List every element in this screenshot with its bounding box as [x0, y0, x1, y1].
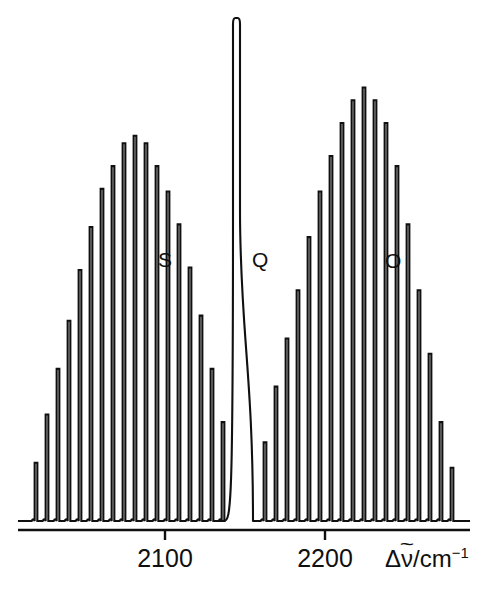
branch-label-q: Q — [252, 249, 269, 270]
axis-title-delta: Δ — [385, 545, 401, 572]
x-tick-label-2200: 2200 — [297, 546, 353, 571]
branch-label-o: O — [385, 250, 402, 271]
raman-spectrum-figure: S Q O 2100 2200 Δ~ν/cm−1 — [0, 0, 486, 607]
axis-title-nu-tilde-group: ~ν — [401, 547, 413, 571]
x-tick-label-2100: 2100 — [137, 546, 193, 571]
tilde-accent: ~ — [400, 535, 414, 555]
spectrum-trace-group — [18, 18, 470, 521]
axis-title-exponent: −1 — [452, 545, 469, 561]
spectrum-plot — [0, 0, 486, 607]
axis-title-unit: /cm — [413, 545, 452, 572]
x-axis-title: Δ~ν/cm−1 — [385, 547, 469, 571]
branch-label-s: S — [158, 249, 172, 270]
